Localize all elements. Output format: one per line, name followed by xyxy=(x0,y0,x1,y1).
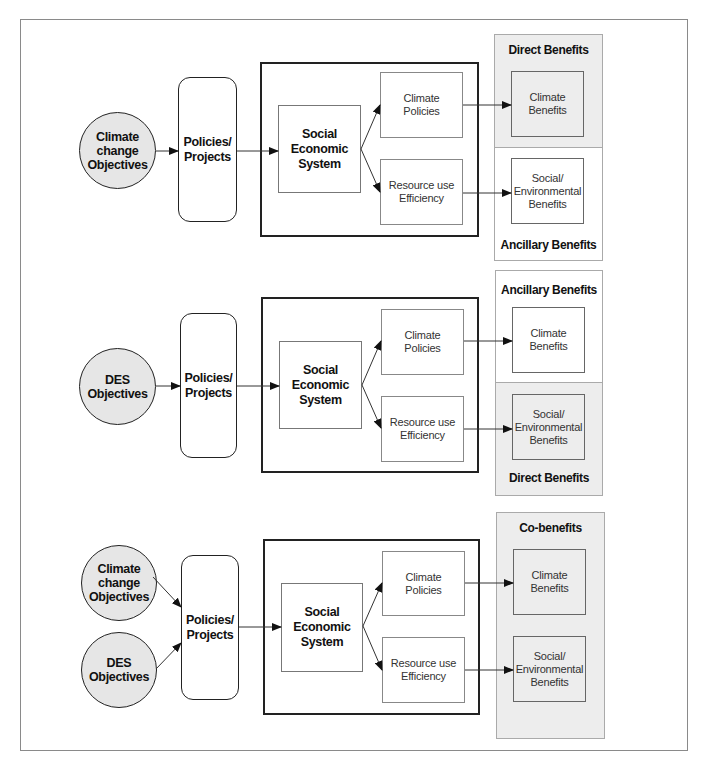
arrow-system-to-resource-efficiency xyxy=(363,626,382,670)
arrow-system-to-climate-policies xyxy=(363,583,382,626)
arrow-system-to-resource-efficiency xyxy=(362,385,381,428)
connector-arrows xyxy=(0,0,702,761)
arrow-system-to-resource-efficiency xyxy=(361,149,380,192)
arrow-climate-objective-to-policies xyxy=(153,577,181,607)
arrow-system-to-climate-policies xyxy=(361,105,380,149)
diagram-canvas: Climate change Objectives Policies/ Proj… xyxy=(0,0,702,761)
arrow-des-objective-to-policies xyxy=(156,643,181,669)
arrow-system-to-climate-policies xyxy=(362,341,381,385)
